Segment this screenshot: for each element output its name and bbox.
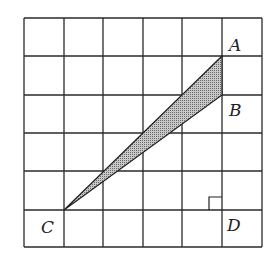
right-angle-marker bbox=[209, 197, 222, 210]
point-label-c: C bbox=[41, 217, 54, 237]
point-label-a: A bbox=[227, 35, 241, 55]
point-label-d: D bbox=[226, 215, 241, 235]
grid-diagram: A B C D bbox=[0, 0, 275, 258]
point-label-b: B bbox=[228, 100, 242, 120]
